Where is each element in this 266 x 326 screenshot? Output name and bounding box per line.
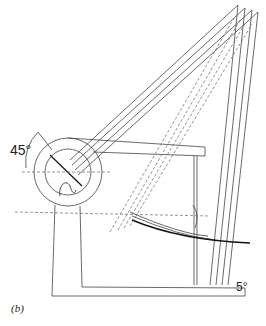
angle-label-45: 45°: [10, 142, 31, 158]
panel-label: (b): [11, 302, 24, 314]
diagram-canvas: [0, 0, 266, 326]
housing-top: [68, 138, 205, 156]
angle-label-5: 5°: [236, 280, 247, 294]
